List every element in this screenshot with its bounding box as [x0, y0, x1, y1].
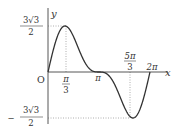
- min-label-numerator: 3√3: [23, 105, 39, 115]
- tick-label-pi: π: [94, 73, 101, 83]
- min-label-minus: −: [7, 113, 14, 123]
- max-label-numerator: 3√3: [23, 15, 39, 25]
- tick-label-pi-over-3-den: 3: [63, 85, 68, 95]
- tick-label-pi-over-3-num: π: [62, 74, 69, 84]
- x-axis-label: x: [165, 67, 171, 78]
- function-graph: y x O 3√3 2 − 3√3 2 π 3 π 5π 3 2π: [0, 0, 176, 132]
- y-axis-label: y: [50, 8, 57, 19]
- tick-label-2pi: 2π: [146, 62, 158, 72]
- min-label-denominator: 2: [28, 118, 33, 128]
- tick-label-5pi-over-3-num: 5π: [125, 51, 136, 61]
- origin-label: O: [37, 74, 45, 85]
- max-label-denominator: 2: [28, 27, 33, 37]
- tick-label-5pi-over-3-den: 3: [127, 62, 132, 72]
